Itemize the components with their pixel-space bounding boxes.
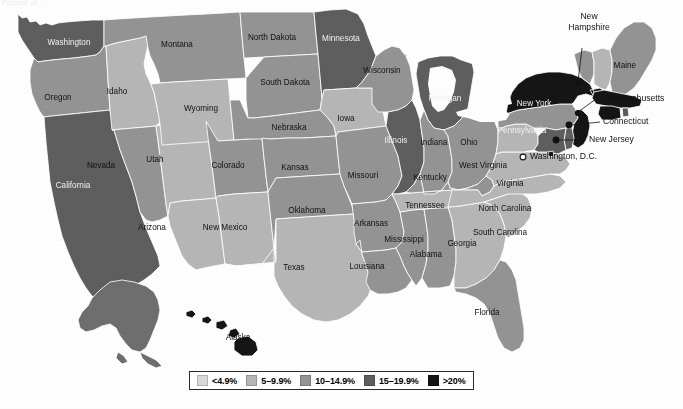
label-KY: Kentucky — [413, 173, 448, 182]
label-NE: Nebraska — [271, 123, 306, 132]
legend-swatch-0 — [197, 375, 208, 386]
states-layer — [18, 9, 656, 368]
label-MI: Michigan — [429, 94, 462, 103]
legend-entry-3[interactable]: 15–19.9% — [364, 375, 419, 386]
label-MN: Minnesota — [322, 34, 360, 43]
label-WY: Wyoming — [184, 104, 218, 113]
label-SD: South Dakota — [260, 78, 310, 87]
callout-new-hampshire-line1: New — [580, 11, 598, 21]
label-GA: Georgia — [447, 239, 477, 248]
dot-massachusetts — [575, 110, 581, 116]
legend-swatch-2 — [300, 375, 311, 386]
label-WI: Wisconsin — [363, 66, 401, 75]
label-VA: Virginia — [496, 179, 524, 188]
label-NY: New York — [517, 99, 552, 108]
label-OR: Oregon — [44, 93, 72, 102]
label-AZ: Arizona — [138, 223, 166, 232]
label-LA: Louisiana — [349, 262, 384, 271]
legend-swatch-1 — [246, 375, 257, 386]
label-MT: Montana — [161, 40, 193, 49]
label-OH: Ohio — [460, 138, 478, 147]
callout-connecticut: Connecticut — [603, 116, 649, 126]
state-ME[interactable] — [610, 22, 656, 96]
legend-label-2: 10–14.9% — [315, 376, 355, 386]
callout-new-hampshire-line2: Hampshire — [568, 22, 610, 32]
callout-new-jersey: New Jersey — [589, 134, 635, 144]
callout-washington-dc: Washington, D.C. — [530, 151, 597, 161]
leader-massachusetts — [578, 99, 596, 112]
label-PA: Pennsylvania — [498, 126, 547, 135]
label-IL: Illinois — [385, 136, 408, 145]
dot-connecticut — [566, 122, 573, 129]
label-ID: Idaho — [107, 87, 128, 96]
label-HI: Alaska — [226, 333, 251, 342]
label-OK: Oklahoma — [288, 206, 326, 215]
choropleth-legend: <4.9% 5–9.9% 10–14.9% 15–19.9% >20% — [189, 371, 474, 390]
legend-label-4: >20% — [443, 376, 466, 386]
label-ME: Maine — [614, 61, 637, 70]
label-NC: North Carolina — [479, 204, 532, 213]
dot-washington-dc — [520, 154, 526, 160]
label-FL: Florida — [474, 308, 499, 317]
label-MO: Missouri — [348, 171, 379, 180]
label-AL: Alabama — [410, 250, 443, 259]
legend-label-3: 15–19.9% — [379, 376, 419, 386]
state-AZ[interactable] — [168, 198, 225, 270]
dot-new-hampshire — [575, 80, 581, 86]
label-CA: California — [56, 181, 91, 190]
label-TX: Texas — [283, 263, 304, 272]
legend-entry-1[interactable]: 5–9.9% — [246, 375, 291, 386]
dot-new-jersey — [553, 137, 560, 144]
clipped-title-text: Percent of ... — [2, 0, 46, 6]
label-AR: Arkansas — [354, 219, 388, 228]
label-IA: Iowa — [337, 114, 355, 123]
legend-label-1: 5–9.9% — [261, 376, 291, 386]
label-MS: Mississippi — [384, 235, 424, 244]
label-SC: South Carolina — [473, 228, 528, 237]
label-CO: Colorado — [211, 161, 245, 170]
label-IN: Indiana — [421, 138, 448, 147]
callout-massachusetts: Massachusetts — [607, 93, 664, 103]
legend-swatch-3 — [364, 375, 375, 386]
us-choropleth-map: Percent of ... — [0, 0, 683, 409]
legend-entry-2[interactable]: 10–14.9% — [300, 375, 355, 386]
label-UT: Utah — [146, 155, 164, 164]
legend-label-0: <4.9% — [212, 376, 237, 386]
label-NV: Nevada — [87, 161, 116, 170]
label-KS: Kansas — [281, 163, 308, 172]
label-NM: New Mexico — [203, 223, 248, 232]
label-WV: West Virginia — [459, 161, 507, 170]
label-ND: North Dakota — [248, 33, 297, 42]
legend-entry-0[interactable]: <4.9% — [197, 375, 237, 386]
map-svg: Washington Oregon California Idaho Nevad… — [0, 0, 683, 409]
legend-entry-4[interactable]: >20% — [428, 375, 466, 386]
label-WA: Washington — [48, 38, 91, 47]
state-NH[interactable] — [592, 48, 612, 90]
label-TN: Tennessee — [405, 201, 445, 210]
legend-swatch-4 — [428, 375, 439, 386]
